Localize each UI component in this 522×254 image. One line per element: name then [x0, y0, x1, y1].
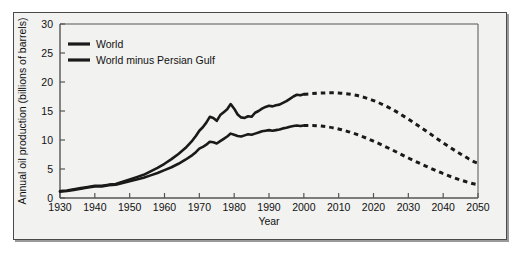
x-tick-label: 2040 [431, 201, 455, 213]
x-tick-label: 2010 [327, 201, 351, 213]
legend-label-world: World [96, 38, 123, 50]
y-tick-label: 30 [41, 18, 53, 30]
legend-label-world-minus-persian-gulf: World minus Persian Gulf [96, 54, 215, 66]
y-tick-label: 15 [41, 105, 53, 117]
x-tick-label: 2030 [397, 201, 421, 213]
x-tick-label: 1950 [118, 201, 142, 213]
x-tick-label: 2050 [466, 201, 490, 213]
figure-container: 051015202530 193019401950196019701980199… [0, 0, 522, 254]
oil-production-line-chart: 051015202530 193019401950196019701980199… [0, 0, 522, 254]
y-axis-title: Annual oil production (billions of barre… [16, 18, 28, 205]
x-axis-title: Year [258, 215, 280, 227]
y-tick-label: 10 [41, 134, 53, 146]
x-tick-label: 1940 [83, 201, 107, 213]
y-tick-label: 25 [41, 47, 53, 59]
x-tick-label: 1960 [153, 201, 177, 213]
plot-background [60, 24, 478, 198]
x-tick-label: 1930 [48, 201, 72, 213]
x-tick-label: 2020 [362, 201, 386, 213]
x-tick-label: 2000 [292, 201, 316, 213]
x-tick-label: 1980 [222, 201, 246, 213]
y-tick-label: 5 [47, 163, 53, 175]
plot-wrapper: 051015202530 193019401950196019701980199… [0, 0, 522, 254]
y-tick-label: 20 [41, 76, 53, 88]
x-tick-label: 1990 [257, 201, 281, 213]
x-tick-label: 1970 [188, 201, 212, 213]
